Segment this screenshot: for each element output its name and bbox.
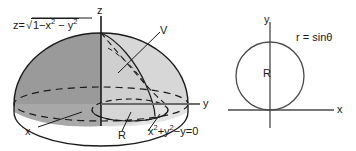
base-region-r-label: R — [118, 130, 126, 141]
radicand-term-2: −x — [39, 19, 51, 31]
axis-y-label: y — [203, 98, 209, 109]
polar-axis-y-label: y — [264, 14, 270, 25]
dome-shell-left — [14, 33, 101, 104]
surface-equation-label: z=√1−x2 − y2 — [13, 18, 79, 31]
base-equation-label: x2+y2−y=0 — [148, 126, 198, 137]
axis-x-label: x — [25, 126, 31, 137]
volume-v-label: V — [160, 25, 167, 36]
axis-z-label: z — [97, 5, 103, 16]
base-eq-term-3: −y=0 — [174, 125, 198, 137]
base-eq-term-2: +y — [158, 125, 170, 137]
radicand-exp-2: 2 — [73, 17, 77, 26]
polar-region-r-label: R — [263, 68, 271, 79]
radicand-term-3: − y — [55, 19, 73, 31]
surface-equation-radicand: 1−x2 − y2 — [31, 18, 79, 31]
surface-equation-lhs: z= — [13, 19, 25, 31]
figure-container: z=√1−x2 − y2 z V x R y x2+y2−y=0 y x r =… — [0, 0, 356, 151]
radical-symbol-icon: √ — [25, 20, 32, 31]
base-slab-left — [14, 104, 101, 127]
polar-curve-equation-label: r = sinθ — [296, 32, 332, 43]
polar-axis-x-label: x — [337, 104, 343, 115]
